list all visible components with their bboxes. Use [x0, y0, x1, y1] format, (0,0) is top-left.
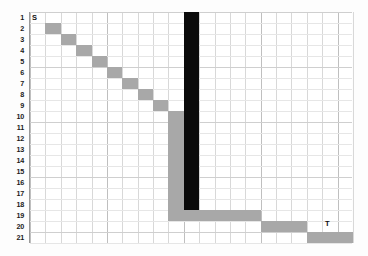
grid-cells [30, 12, 352, 243]
horizontal-path-segment-row21 [307, 232, 353, 243]
row-label-2: 2 [2, 23, 24, 34]
grid-vline-21 [353, 12, 354, 243]
row-label-12: 12 [2, 133, 24, 144]
diagonal-cell-r7 [122, 78, 137, 89]
row-label-10: 10 [2, 111, 24, 122]
row-label-15: 15 [2, 166, 24, 177]
diagonal-cell-r6 [107, 67, 122, 78]
row-label-9: 9 [2, 100, 24, 111]
row-label-11: 11 [2, 122, 24, 133]
start-label: S [32, 13, 37, 22]
target-label: T [325, 219, 330, 228]
row-label-20: 20 [2, 221, 24, 232]
row-label-21: 21 [2, 232, 24, 243]
row-label-3: 3 [2, 34, 24, 45]
row-label-7: 7 [2, 78, 24, 89]
row-label-18: 18 [2, 199, 24, 210]
diagonal-cell-r2 [45, 23, 60, 34]
diagonal-cell-r3 [61, 34, 76, 45]
horizontal-path-segment-row20 [261, 221, 307, 232]
grid-hline-21 [30, 243, 352, 244]
row-label-16: 16 [2, 177, 24, 188]
row-label-13: 13 [2, 144, 24, 155]
row-label-6: 6 [2, 67, 24, 78]
diagonal-cell-r9 [153, 100, 168, 111]
vertical-path-segment [168, 111, 183, 210]
row-label-8: 8 [2, 89, 24, 100]
row-label-4: 4 [2, 45, 24, 56]
diagonal-cell-r8 [138, 89, 153, 100]
row-label-1: 1 [2, 12, 24, 23]
row-label-gutter: 123456789101112131415161718192021 [0, 12, 28, 243]
diagonal-cell-r5 [92, 56, 107, 67]
grid-diagram-canvas: 123456789101112131415161718192021 S T [0, 0, 368, 256]
row-label-5: 5 [2, 56, 24, 67]
diagonal-cell-r4 [76, 45, 91, 56]
horizontal-path-segment-row19 [168, 210, 260, 221]
row-label-19: 19 [2, 210, 24, 221]
row-label-17: 17 [2, 188, 24, 199]
obstacle-bar [184, 12, 199, 210]
grid-plot-area: S [29, 12, 352, 243]
row-label-14: 14 [2, 155, 24, 166]
